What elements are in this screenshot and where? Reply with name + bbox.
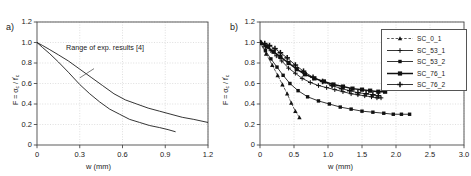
- x-tick-label: 1.0: [316, 150, 340, 159]
- square-filled-marker: [286, 61, 290, 65]
- series-lower-envelope: [37, 43, 175, 132]
- legend-swatch-square-small: [385, 56, 415, 67]
- y-tick-label: 1.0: [234, 38, 255, 47]
- x-tick-label: 1.5: [350, 150, 374, 159]
- legend-label: SC_53_2: [417, 58, 445, 65]
- legend-swatch-plus-bold: [385, 79, 415, 90]
- legend-label: SC_0_1: [417, 35, 441, 42]
- y-tick-label: 0.6: [11, 79, 32, 88]
- y-tick-label: 1.2: [11, 17, 32, 26]
- square-small-marker: [382, 112, 385, 115]
- x-tick-label: 2.5: [418, 150, 442, 159]
- square-small-marker: [275, 65, 278, 68]
- y-tick-label: 0.8: [234, 58, 255, 67]
- square-small-marker: [400, 113, 403, 116]
- square-small-marker: [306, 95, 309, 98]
- panel-b-x-axis-label: w (mm): [328, 162, 353, 171]
- y-tick-label: 0.8: [11, 58, 32, 67]
- figure-container: a) F = σc / f'c Range of exp. results [4…: [0, 0, 471, 176]
- y-tick-label: 0: [234, 140, 255, 149]
- triangle-marker: [275, 73, 279, 77]
- x-tick-label: 0.9: [153, 150, 177, 159]
- square-small-marker: [288, 82, 291, 85]
- legend-label: SC_76_1: [417, 70, 445, 77]
- legend-swatch-triangle: [385, 33, 415, 44]
- grid-lines: [37, 22, 208, 145]
- plus-marker: [316, 83, 321, 88]
- square-small-marker: [296, 89, 299, 92]
- x-tick-label: 1.2: [196, 150, 220, 159]
- y-tick-label: 0.2: [11, 120, 32, 129]
- plus-marker: [333, 87, 338, 92]
- square-small-marker: [408, 113, 411, 116]
- panel-a: a) F = σc / f'c Range of exp. results [4…: [0, 0, 235, 176]
- square-small-marker: [392, 113, 395, 116]
- x-tick-label: 0: [25, 150, 49, 159]
- y-tick-label: 1.0: [11, 38, 32, 47]
- legend-label: SC_53_1: [417, 47, 445, 54]
- legend-item-sc_0_1: SC_0_1: [385, 33, 441, 44]
- square-small-marker: [281, 74, 284, 77]
- legend-marker-square-filled: [398, 71, 402, 75]
- legend-marker-square-small: [398, 60, 401, 63]
- y-tick-label: 1.2: [234, 17, 255, 26]
- plus-marker: [308, 80, 313, 85]
- y-tick-label: 0: [11, 140, 32, 149]
- legend-label: SC_76_2: [417, 81, 445, 88]
- y-tick-label: 0.2: [234, 120, 255, 129]
- legend-item-sc_76_2: SC_76_2: [385, 79, 445, 90]
- legend-item-sc_53_1: SC_53_1: [385, 45, 445, 56]
- square-small-marker: [317, 99, 320, 102]
- y-tick-label: 0.6: [234, 79, 255, 88]
- x-tick-label: 3.0: [452, 150, 471, 159]
- square-small-marker: [339, 105, 342, 108]
- square-small-marker: [328, 102, 331, 105]
- y-tick-label: 0.4: [234, 99, 255, 108]
- triangle-marker: [289, 101, 293, 105]
- square-small-marker: [269, 57, 272, 60]
- square-small-marker: [360, 109, 363, 112]
- square-small-marker: [371, 111, 374, 114]
- legend-marker-plus-bold: [397, 82, 403, 88]
- x-tick-label: 0.3: [68, 150, 92, 159]
- annotation-leader-line: [80, 69, 94, 78]
- x-tick-label: 0: [248, 150, 272, 159]
- plus-marker: [324, 85, 329, 90]
- y-tick-label: 0.4: [11, 99, 32, 108]
- square-small-marker: [264, 49, 267, 52]
- panel-a-annotation: Range of exp. results [4]: [66, 43, 144, 52]
- legend-item-sc_76_1: SC_76_1: [385, 68, 445, 79]
- panel-b: b) F = σc / f'c SC_0_1SC_53_1SC_53_2SC_7…: [228, 0, 471, 176]
- legend-item-sc_53_2: SC_53_2: [385, 56, 445, 67]
- legend: SC_0_1SC_53_1SC_53_2SC_76_1SC_76_2: [381, 29, 467, 91]
- x-tick-label: 2.0: [384, 150, 408, 159]
- square-small-marker: [349, 107, 352, 110]
- x-tick-label: 0.5: [282, 150, 306, 159]
- legend-swatch-plus: [385, 45, 415, 56]
- legend-marker-plus: [398, 48, 403, 53]
- triangle-marker: [297, 115, 301, 119]
- x-tick-label: 0.6: [111, 150, 135, 159]
- legend-swatch-square-filled: [385, 68, 415, 79]
- panel-a-x-axis-label: w (mm): [86, 162, 111, 171]
- triangle-marker: [280, 82, 284, 86]
- square-filled-marker: [360, 88, 364, 92]
- square-filled-marker: [368, 89, 372, 93]
- tick-marks: [34, 22, 208, 148]
- triangle-marker: [285, 92, 289, 96]
